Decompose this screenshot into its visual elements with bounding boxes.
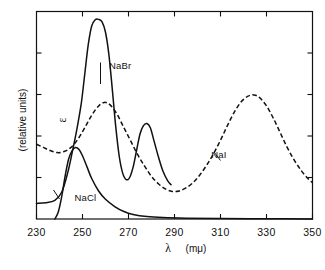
- chart-figure: 230250270290310330350 NaClNaBrNaI λ (mμ)…: [0, 0, 325, 270]
- x-tick-label-250: 250: [73, 226, 92, 238]
- y-axis-label-units: (relative units): [17, 89, 28, 152]
- x-tick-label-350: 350: [303, 226, 322, 238]
- y-axis-label-symbol: ε: [56, 117, 68, 122]
- x-tick-label-230: 230: [27, 226, 46, 238]
- series-label-nacl: NaCl: [74, 192, 96, 203]
- x-axis-label-units: (mμ): [186, 243, 207, 254]
- figure-background: [0, 0, 325, 270]
- series-label-nabr: NaBr: [109, 60, 131, 71]
- x-tick-label-270: 270: [119, 226, 138, 238]
- x-axis-label-symbol: λ: [165, 242, 171, 254]
- absorption-spectra-plot: 230250270290310330350 NaClNaBrNaI λ (mμ)…: [0, 0, 325, 270]
- x-tick-label-330: 330: [257, 226, 276, 238]
- x-tick-label-310: 310: [211, 226, 230, 238]
- x-tick-label-290: 290: [165, 226, 184, 238]
